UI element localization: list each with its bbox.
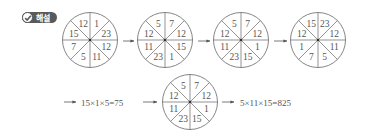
wheel-5: 7121152311125 (163, 75, 218, 130)
sector-value: 11 (144, 42, 153, 52)
sector-value: 15 (177, 42, 187, 52)
sector-value: 12 (79, 19, 89, 29)
sector-value: 12 (330, 29, 340, 39)
sector-value: 5 (181, 81, 186, 91)
sector-value: 23 (320, 19, 330, 29)
wheel-3: 7121152311125 (214, 13, 269, 68)
sector-value: 12 (220, 29, 230, 39)
sector-value: 1 (255, 42, 260, 52)
equation-second: 5×11×15=825 (240, 98, 291, 108)
sector-value: 23 (102, 29, 112, 39)
sector-value: 1 (169, 52, 174, 62)
sector-value: 5 (156, 19, 161, 29)
sector-value: 1 (204, 104, 209, 114)
wheel-2: 7121512311125 (138, 13, 193, 68)
sector-value: 1 (299, 42, 304, 52)
sector-value: 23 (230, 52, 240, 62)
sector-value: 5 (81, 52, 86, 62)
sector-value: 15 (307, 19, 317, 29)
equation-first: 15×1×5=75 (81, 98, 124, 108)
wheel-4: 2312115711215 (291, 13, 346, 68)
sector-value: 15 (243, 52, 253, 62)
sector-value: 23 (179, 114, 189, 124)
sector-value: 12 (297, 29, 307, 39)
sector-value: 12 (177, 29, 187, 39)
sector-value: 11 (92, 52, 101, 62)
sector-value: 7 (309, 52, 314, 62)
sector-value: 12 (169, 91, 179, 101)
sector-value: 12 (253, 29, 263, 39)
solution-diagram: 1231211571512712151231112571211523111252… (0, 0, 365, 137)
sector-value: 7 (245, 19, 250, 29)
sector-value: 5 (232, 19, 237, 29)
sector-value: 5 (322, 52, 327, 62)
sector-value: 23 (154, 52, 164, 62)
sector-value: 7 (71, 42, 76, 52)
sector-value: 15 (69, 29, 79, 39)
sector-value: 11 (220, 42, 229, 52)
wheel-1: 1231211571512 (63, 13, 118, 68)
sector-value: 12 (144, 29, 154, 39)
sector-value: 7 (169, 19, 174, 29)
sector-value: 1 (94, 19, 99, 29)
sector-value: 12 (202, 91, 212, 101)
sector-value: 11 (330, 42, 339, 52)
sector-value: 15 (192, 114, 202, 124)
sector-value: 7 (194, 81, 199, 91)
sector-value: 11 (169, 104, 178, 114)
sector-value: 12 (102, 42, 112, 52)
